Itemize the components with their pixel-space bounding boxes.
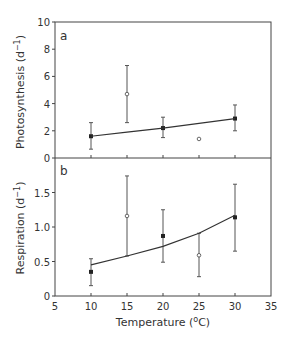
y-tick-label: 2 bbox=[44, 126, 50, 137]
x-tick-label: 5 bbox=[52, 301, 58, 312]
x-tick-label: 15 bbox=[121, 301, 134, 312]
y-tick-label: 0 bbox=[44, 153, 50, 164]
y-axis-label-respiration: Respiration (d−1) bbox=[13, 182, 27, 275]
x-tick-label: 35 bbox=[265, 301, 278, 312]
y-tick-label: 8 bbox=[44, 44, 50, 55]
y-tick-label: 10 bbox=[37, 17, 50, 28]
x-tick-label: 30 bbox=[229, 301, 242, 312]
data-point-open bbox=[197, 253, 201, 257]
y-tick-label: 0.5 bbox=[34, 257, 50, 268]
panel-b-label: b bbox=[60, 164, 68, 178]
temperature-response-chart: a b Photosynthesis (d−1) Respiration (d−… bbox=[0, 0, 283, 340]
x-tick-label: 20 bbox=[157, 301, 170, 312]
y-axis-label-photosynthesis: Photosynthesis (d−1) bbox=[13, 35, 27, 149]
data-point-filled bbox=[161, 234, 165, 238]
y-tick-label: 1.5 bbox=[34, 188, 50, 199]
data-point-open bbox=[125, 92, 129, 96]
x-tick-label: 10 bbox=[85, 301, 98, 312]
y-tick-label: 4 bbox=[44, 99, 50, 110]
chart-content: 024681000.51.01.55101520253035 bbox=[34, 17, 277, 312]
y-tick-label: 6 bbox=[44, 71, 50, 82]
data-point-filled bbox=[89, 270, 93, 274]
x-tick-label: 25 bbox=[193, 301, 206, 312]
panel-a-label: a bbox=[60, 29, 67, 43]
x-axis-label: Temperature (oC) bbox=[115, 315, 210, 329]
y-tick-label: 1.0 bbox=[34, 222, 50, 233]
data-point-open bbox=[125, 214, 129, 218]
y-tick-label: 0 bbox=[44, 291, 50, 302]
data-point-open bbox=[197, 137, 201, 141]
